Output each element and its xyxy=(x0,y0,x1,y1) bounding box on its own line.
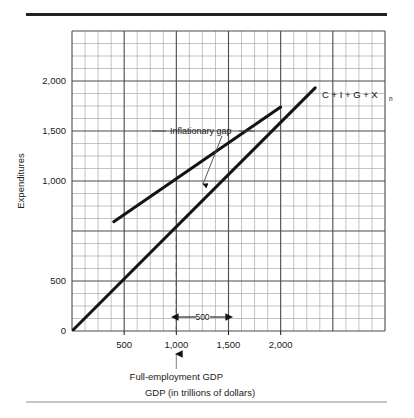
series-45-degree-line xyxy=(72,88,315,331)
x-tick-500: 500 xyxy=(116,339,132,350)
annotation-gap-measure-500: 500 xyxy=(178,312,227,322)
series-label-text: C + I + G + X xyxy=(322,89,378,100)
y-tick-1000: 1,000 xyxy=(42,175,66,186)
series-label-subscript: n xyxy=(389,95,393,102)
y-tick-0: 0 xyxy=(61,325,66,336)
expenditures-gdp-chart: C + I + G + X n Inflationary gap 500 xyxy=(0,0,414,418)
y-tick-500: 500 xyxy=(50,275,66,286)
y-tick-1500: 1,500 xyxy=(42,125,66,136)
y-tick-2000: 2,000 xyxy=(42,75,66,86)
chart-plot-wrapper: C + I + G + X n Inflationary gap 500 xyxy=(0,0,414,418)
full-employment-gdp-label: Full-employment GDP xyxy=(130,371,223,382)
annotation-full-employment-gdp: Full-employment GDP xyxy=(130,354,223,382)
gap-measure-label: 500 xyxy=(195,312,209,322)
x-tick-2000: 2,000 xyxy=(269,339,293,350)
x-tick-1500: 1,500 xyxy=(217,339,241,350)
y-axis-tick-labels: 0 500 1,000 1,500 2,000 xyxy=(42,75,66,336)
x-tick-1000: 1,000 xyxy=(164,339,188,350)
y-axis-title: Expenditures xyxy=(15,153,26,209)
x-axis-title: GDP (in trillions of dollars) xyxy=(145,387,255,398)
x-axis-tick-labels: 500 1,000 1,500 2,000 xyxy=(116,339,292,350)
inflationary-gap-label: Inflationary gap xyxy=(170,126,232,136)
x-axis-ticks xyxy=(124,331,281,335)
figure-container: C + I + G + X n Inflationary gap 500 xyxy=(0,0,414,418)
